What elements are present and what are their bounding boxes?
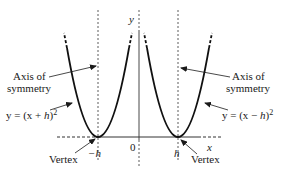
right-equation-arrow-icon	[205, 103, 228, 110]
left-equation-annotation: y = (x + h)2	[6, 103, 72, 122]
left-equation-label: y = (x + h)2	[6, 108, 57, 122]
right-axis-label-line2: symmetry	[226, 82, 270, 94]
y-axis-label: y	[128, 13, 134, 25]
neg-h-tick-label: −h	[88, 147, 101, 159]
pos-h-tick-label: h	[174, 147, 180, 159]
left-equation-arrow-icon	[50, 103, 72, 110]
right-axis-label-line1: Axis of	[232, 70, 265, 82]
origin-label: 0	[130, 141, 136, 153]
x-axis-label: x	[206, 141, 212, 153]
right-equation-label: y = (x − h)2	[222, 108, 273, 122]
right-vertex-annotation: Vertex	[181, 140, 220, 165]
right-vertex-arrow-icon	[181, 140, 197, 154]
right-axis-of-symmetry-annotation: Axis of symmetry	[181, 68, 270, 94]
right-vertex-label: Vertex	[191, 153, 220, 165]
left-axis-label-line2: symmetry	[7, 82, 51, 94]
right-parabola	[144, 33, 212, 137]
right-equation-annotation: y = (x − h)2	[205, 103, 273, 122]
parabola-diagram: y x 0 −h h Axis of symmetry y = (x + h)2…	[0, 0, 281, 177]
left-parabola	[64, 33, 132, 137]
left-vertex-label: Vertex	[49, 153, 78, 165]
left-axis-label-line1: Axis of	[13, 70, 46, 82]
left-axis-of-symmetry-annotation: Axis of symmetry	[7, 66, 96, 94]
